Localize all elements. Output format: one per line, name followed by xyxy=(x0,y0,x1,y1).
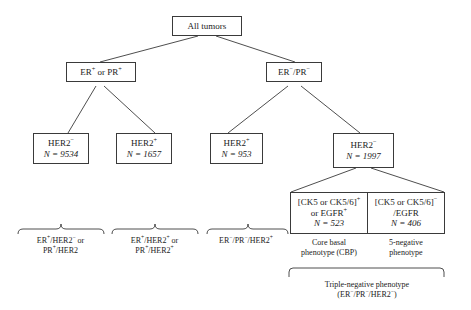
node-her2-positive-hr-negative[interactable]: HER2+ N = 953 xyxy=(210,133,263,164)
bracket-label-group3-line1: ER−/PR−/HER2+ xyxy=(196,236,296,246)
node-her2-positive-hr-positive[interactable]: HER2+ N = 1657 xyxy=(116,133,172,164)
bracket-label-5neg-line2: phenotype xyxy=(367,248,445,258)
node-her2-neg-left-label: HER2− xyxy=(48,138,74,149)
bracket-label-group1-line2: PR+/HER2 xyxy=(8,246,113,256)
bracket-label-group1: ER+/HER2− or PR+/HER2 xyxy=(8,236,113,256)
node-er-pr-negative[interactable]: ER−/PR− xyxy=(266,62,322,82)
node-her2-negative-hr-positive[interactable]: HER2− N = 9534 xyxy=(33,133,89,164)
node-all-tumors-label: All tumors xyxy=(188,21,227,32)
node-cbp-line2: or EGFR+ xyxy=(311,208,347,219)
bracket-label-triple-negative: Triple-negative phenotype (ER−/PR−/HER2−… xyxy=(286,280,448,300)
bracket-label-group1-line1: ER+/HER2− or xyxy=(8,236,113,246)
node-her2-pos-left-count: N = 1657 xyxy=(127,149,162,160)
node-all-tumors[interactable]: All tumors xyxy=(172,16,242,36)
node-er-pr-positive-label: ER+ or PR+ xyxy=(80,67,122,78)
node-cbp-count: N = 523 xyxy=(314,218,344,229)
node-5neg-count: N = 406 xyxy=(391,218,421,229)
bracket-label-group2-line2: PR+/HER2+ xyxy=(102,246,207,256)
node-5neg-line1: [CK5 or CK5/6]− xyxy=(375,197,438,208)
bracket-label-triple-negative-line2: (ER−/PR−/HER2−) xyxy=(286,290,448,300)
node-her2-pos-right-label: HER2+ xyxy=(223,138,249,149)
node-core-basal-phenotype[interactable]: [CK5 or CK5/6]+ or EGFR+ N = 523 xyxy=(290,192,368,234)
bracket-label-group3: ER−/PR−/HER2+ xyxy=(196,236,296,246)
bracket-label-group2: ER+/HER2+ or PR+/HER2+ xyxy=(102,236,207,256)
node-her2-negative-hr-negative[interactable]: HER2− N = 1997 xyxy=(333,133,394,168)
node-her2-pos-left-label: HER2+ xyxy=(131,138,157,149)
node-5neg-line2: /EGFR xyxy=(393,208,419,219)
node-er-pr-negative-label: ER−/PR− xyxy=(278,67,310,78)
node-her2-neg-right-count: N = 1997 xyxy=(346,151,381,162)
node-cbp-line1: [CK5 or CK5/6]+ xyxy=(298,197,361,208)
node-her2-neg-left-count: N = 9534 xyxy=(44,149,79,160)
node-her2-neg-right-label: HER2− xyxy=(350,140,376,151)
node-her2-pos-right-count: N = 953 xyxy=(221,149,251,160)
bracket-label-cbp: Core basal phenotype (CBP) xyxy=(290,238,368,258)
bracket-label-5neg-line1: 5-negative xyxy=(367,238,445,248)
bracket-label-group2-line1: ER+/HER2+ or xyxy=(102,236,207,246)
bracket-label-cbp-line1: Core basal xyxy=(290,238,368,248)
flowchart-root: All tumors ER+ or PR+ ER−/PR− HER2− N = … xyxy=(0,0,471,310)
node-er-pr-positive[interactable]: ER+ or PR+ xyxy=(66,62,136,82)
bracket-label-five-negative: 5-negative phenotype xyxy=(367,238,445,258)
bracket-label-cbp-line2: phenotype (CBP) xyxy=(290,248,368,258)
node-five-negative-phenotype[interactable]: [CK5 or CK5/6]− /EGFR N = 406 xyxy=(367,192,445,234)
